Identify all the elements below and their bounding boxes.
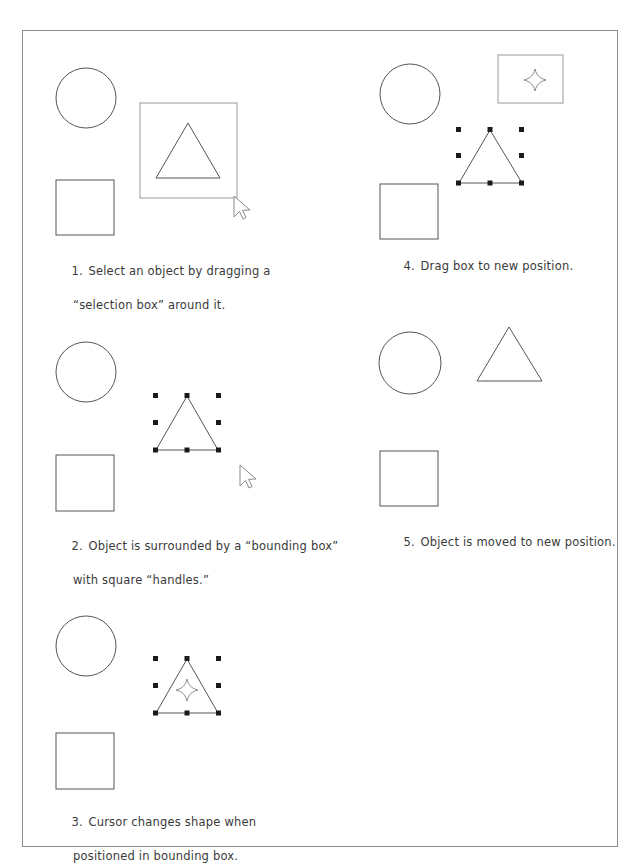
- handle-bottom-left[interactable]: [153, 448, 158, 453]
- caption-step-3: 3.Cursor changes shape when positioned i…: [56, 797, 256, 868]
- handle-bottom-center[interactable]: [185, 448, 190, 453]
- handle-middle-right[interactable]: [216, 683, 221, 688]
- triangle-shape[interactable]: [156, 123, 220, 178]
- handle-bottom-left[interactable]: [153, 711, 158, 716]
- square-shape[interactable]: [56, 455, 114, 511]
- caption-line2-3: positioned in bounding box.: [56, 848, 256, 865]
- arrow-pointer-cursor: [240, 465, 256, 488]
- handle-top-left[interactable]: [153, 393, 158, 398]
- handle-top-right[interactable]: [216, 656, 221, 661]
- caption-number-1: 1.: [71, 263, 88, 280]
- handle-middle-left[interactable]: [153, 683, 158, 688]
- bounding-box-handles[interactable]: [153, 393, 221, 453]
- handle-bottom-center[interactable]: [185, 711, 190, 716]
- caption-number-3: 3.: [71, 814, 88, 831]
- caption-line1-4: Drag box to new position.: [420, 259, 573, 273]
- move-cursor: [176, 679, 198, 701]
- caption-number-4: 4.: [403, 258, 420, 275]
- caption-step-4: 4.Drag box to new position.: [388, 241, 573, 292]
- caption-number-2: 2.: [71, 538, 88, 555]
- handle-bottom-right[interactable]: [519, 181, 524, 186]
- handle-middle-left[interactable]: [153, 420, 158, 425]
- triangle-shape[interactable]: [156, 396, 218, 450]
- caption-line1-2: Object is surrounded by a “bounding box”: [88, 539, 338, 553]
- move-cursor: [524, 69, 546, 91]
- handle-middle-right[interactable]: [216, 420, 221, 425]
- panel-step-5: [372, 318, 612, 538]
- square-shape[interactable]: [380, 184, 438, 239]
- caption-line2-2: with square “handles.”: [56, 572, 338, 589]
- triangle-shape-moved[interactable]: [477, 327, 542, 381]
- handle-top-center[interactable]: [185, 393, 190, 398]
- panel-4-figure: [372, 48, 612, 268]
- handle-bottom-right[interactable]: [216, 448, 221, 453]
- caption-line1-3: Cursor changes shape when: [88, 815, 256, 829]
- caption-step-1: 1.Select an object by dragging a “select…: [56, 246, 271, 348]
- selection-box[interactable]: [140, 103, 237, 198]
- handle-top-right[interactable]: [519, 127, 524, 132]
- caption-line2-1: “selection box” around it.: [56, 297, 271, 314]
- circle-shape[interactable]: [379, 332, 441, 394]
- triangle-shape[interactable]: [459, 130, 522, 183]
- bounding-box-handles[interactable]: [456, 127, 524, 186]
- panel-step-4: [372, 48, 612, 268]
- square-shape[interactable]: [56, 733, 114, 789]
- handle-top-left[interactable]: [456, 127, 461, 132]
- circle-shape[interactable]: [56, 68, 116, 128]
- handle-top-right[interactable]: [216, 393, 221, 398]
- panel-5-figure: [372, 318, 612, 538]
- caption-number-5: 5.: [403, 534, 420, 551]
- handle-middle-left[interactable]: [456, 153, 461, 158]
- handle-bottom-left[interactable]: [456, 181, 461, 186]
- arrow-pointer-cursor: [234, 196, 250, 219]
- handle-top-center[interactable]: [488, 127, 493, 132]
- caption-line1-5: Object is moved to new position.: [420, 535, 615, 549]
- handle-bottom-center[interactable]: [488, 181, 493, 186]
- caption-step-5: 5.Object is moved to new position.: [388, 517, 616, 568]
- handle-bottom-right[interactable]: [216, 711, 221, 716]
- handle-middle-right[interactable]: [519, 153, 524, 158]
- circle-shape[interactable]: [56, 616, 116, 676]
- handle-top-center[interactable]: [185, 656, 190, 661]
- handle-top-left[interactable]: [153, 656, 158, 661]
- circle-shape[interactable]: [380, 64, 440, 124]
- caption-line1-1: Select an object by dragging a: [88, 264, 270, 278]
- square-shape[interactable]: [380, 451, 438, 506]
- square-shape[interactable]: [56, 180, 114, 235]
- circle-shape[interactable]: [56, 342, 116, 402]
- page-canvas: 1.Select an object by dragging a “select…: [0, 0, 641, 868]
